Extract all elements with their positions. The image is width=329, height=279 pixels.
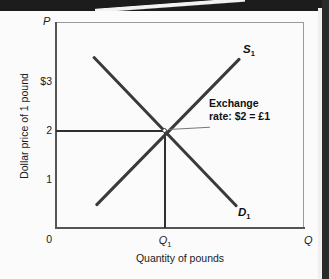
y-axis-title: Dollar price of 1 pound — [18, 46, 30, 206]
y-axis-letter: P — [43, 15, 50, 27]
x-tick-q1-subscript: 1 — [167, 240, 171, 249]
scan-edge-right-inner — [318, 8, 322, 279]
scan-edge-sliver — [95, 0, 245, 11]
exchange-rate-annotation: Exchange rate: $2 = £1 — [209, 97, 270, 123]
plot-frame — [55, 22, 304, 228]
chart-figure: P Q $3 2 1 0 Q1 Dollar price of 1 pound … — [0, 0, 329, 279]
supply-label-subscript: 1 — [251, 49, 255, 58]
x-tick-q1-base: Q — [159, 234, 168, 246]
x-axis-line — [55, 227, 305, 229]
annotation-line-1: Exchange — [209, 97, 270, 110]
scan-edge-right — [322, 0, 329, 279]
x-axis-title: Quantity of pounds — [100, 252, 260, 264]
equilibrium-quantity-line — [164, 131, 166, 228]
y-axis-line — [55, 22, 57, 229]
x-tick-label-q1: Q1 — [149, 234, 181, 249]
demand-curve-label: D1 — [238, 206, 250, 221]
supply-label-base: S — [243, 43, 251, 55]
x-axis-letter: Q — [304, 234, 313, 246]
equilibrium-price-line — [56, 130, 166, 132]
annotation-line-2: rate: $2 = £1 — [209, 110, 270, 123]
equilibrium-point — [162, 128, 167, 133]
demand-label-subscript: 1 — [246, 212, 250, 221]
supply-curve-label: S1 — [243, 43, 255, 58]
origin-label: 0 — [26, 233, 52, 245]
